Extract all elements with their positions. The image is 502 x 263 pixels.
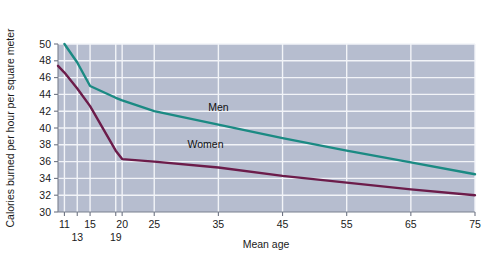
y-tick-label: 38 — [39, 138, 51, 150]
x-tick-label: 75 — [469, 218, 481, 230]
x-tick-label: 20 — [116, 218, 128, 230]
y-tick-label: 46 — [39, 71, 51, 83]
x-tick-label: 45 — [277, 218, 289, 230]
y-tick-label: 34 — [39, 172, 51, 184]
x-tick-label: 65 — [405, 218, 417, 230]
y-axis-title: Calories burned per hour per square mete… — [4, 28, 16, 228]
x-axis-title: Mean age — [243, 238, 290, 250]
y-tick-label: 32 — [39, 189, 51, 201]
calories-vs-age-line-chart: 3032343638404244464850 11131519202535455… — [0, 0, 502, 263]
series-label-men: Men — [208, 101, 229, 113]
y-tick-label: 42 — [39, 105, 51, 117]
chart-figure: 3032343638404244464850 11131519202535455… — [0, 0, 502, 263]
y-tick-label: 36 — [39, 155, 51, 167]
x-tick-label: 35 — [213, 218, 225, 230]
y-tick-label: 30 — [39, 206, 51, 218]
y-tick-label: 48 — [39, 54, 51, 66]
y-tick-label: 40 — [39, 122, 51, 134]
x-tick-label: 25 — [148, 218, 160, 230]
x-tick-label: 15 — [84, 218, 96, 230]
x-tick-label: 11 — [59, 218, 70, 230]
series-label-women: Women — [188, 138, 224, 150]
x-tick-label: 13 — [71, 231, 83, 243]
y-tick-label: 44 — [39, 88, 51, 100]
x-tick-label: 19 — [110, 231, 122, 243]
x-tick-label: 55 — [341, 218, 353, 230]
y-tick-label: 50 — [39, 38, 51, 50]
